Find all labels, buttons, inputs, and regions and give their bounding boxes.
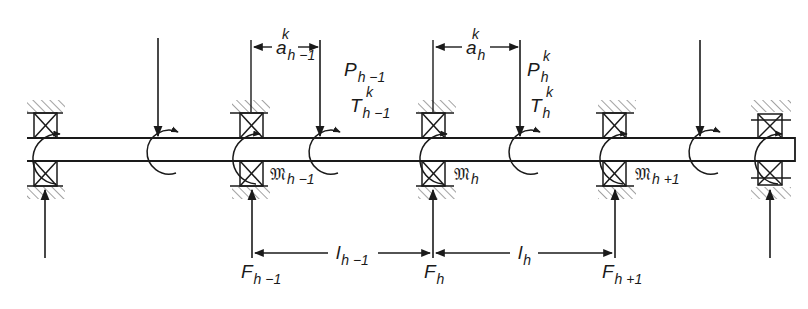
label-base: T	[530, 95, 542, 116]
label-T-h-minus-1: Tkh −1	[350, 96, 390, 115]
label-sub: h −1	[288, 47, 316, 63]
label-P-h-minus-1: Ph −1	[344, 60, 385, 79]
label-sub: h	[541, 69, 549, 85]
label-sub: h	[471, 171, 479, 187]
label-sub: h	[478, 47, 486, 63]
label-base: F	[424, 261, 436, 282]
label-P-h: Pkh	[527, 60, 548, 79]
label-sub: h	[523, 252, 531, 268]
label-sub: h +1	[652, 171, 680, 187]
label-F-h-plus-1: Fh +1	[602, 262, 642, 281]
label-sub: h −1	[341, 252, 369, 268]
label-base: l	[336, 242, 340, 263]
label-M-h-minus-1: 𝔐h −1	[270, 166, 315, 183]
label-base: 𝔐	[635, 164, 651, 184]
label-base: P	[344, 59, 357, 80]
label-a-h: akh	[466, 38, 485, 57]
label-M-h: 𝔐h	[454, 166, 479, 183]
label-sub: h +1	[615, 271, 643, 287]
label-a-h-minus-1: akh −1	[276, 38, 315, 57]
label-sub: h	[543, 105, 551, 121]
label-sup: k	[546, 85, 553, 99]
label-M-h-plus-1: 𝔐h +1	[635, 166, 680, 183]
label-F-h: Fh	[424, 262, 444, 281]
label-base: T	[350, 95, 362, 116]
reaction-arrows	[45, 190, 770, 258]
label-base: F	[241, 261, 253, 282]
label-sub: h −1	[254, 271, 282, 287]
label-sub: h −1	[287, 171, 315, 187]
label-l-h: lh	[518, 243, 531, 262]
label-sub: h −1	[363, 105, 391, 121]
label-F-h-minus-1: Fh −1	[241, 262, 281, 281]
shaft-diagram	[0, 0, 808, 309]
label-base: F	[602, 261, 614, 282]
label-sup: k	[366, 85, 373, 99]
label-sup: k	[543, 49, 550, 63]
label-l-h-minus-1: lh −1	[336, 243, 369, 262]
bearing-1	[27, 100, 65, 199]
label-sub: h −1	[358, 69, 386, 85]
label-sub: h	[437, 271, 445, 287]
shaft	[27, 138, 795, 161]
label-base: l	[518, 242, 522, 263]
label-base: 𝔐	[454, 164, 470, 184]
label-T-h: Tkh	[530, 96, 550, 115]
label-sup: k	[282, 27, 289, 41]
label-sup: k	[472, 27, 479, 41]
label-base: P	[527, 59, 540, 80]
label-base: 𝔐	[270, 164, 286, 184]
bearing-2	[230, 100, 270, 199]
